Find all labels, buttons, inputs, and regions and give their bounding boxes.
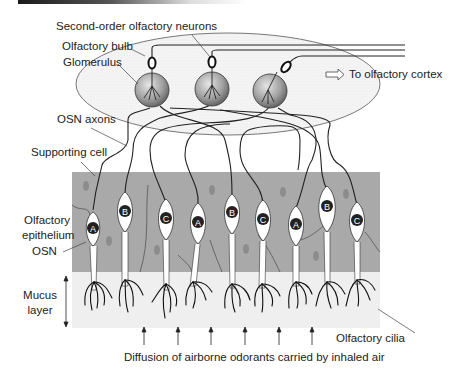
label-to-olfactory-cortex: To olfactory cortex — [349, 68, 442, 81]
label-osn-axons: OSN axons — [57, 113, 116, 126]
glomerulus — [253, 74, 287, 108]
label-glomerulus: Glomerulus — [63, 56, 122, 69]
label-mucus-layer: Mucus layer — [20, 289, 60, 317]
label-supporting-cell: Supporting cell — [31, 146, 107, 159]
label-diffusion: Diffusion of airborne odorants carried b… — [124, 351, 385, 364]
svg-text:A: A — [195, 218, 201, 228]
svg-text:C: C — [260, 215, 267, 225]
svg-text:B: B — [229, 208, 235, 218]
svg-text:A: A — [90, 224, 96, 234]
svg-text:C: C — [354, 216, 361, 226]
svg-text:A: A — [293, 220, 299, 230]
label-olfactory-cilia: Olfactory cilia — [336, 332, 405, 345]
mucus-layer — [72, 272, 380, 328]
label-mucus-line2: layer — [20, 304, 60, 317]
svg-text:B: B — [122, 207, 128, 217]
label-olfactory-bulb: Olfactory bulb — [62, 40, 133, 53]
label-osn: OSN — [32, 245, 57, 258]
label-second-order-neurons: Second-order olfactory neurons — [56, 20, 217, 33]
svg-text:C: C — [163, 214, 170, 224]
diffusion-arrows-icon — [142, 327, 314, 345]
mucus-double-arrow-icon — [64, 276, 68, 327]
label-mucus-line1: Mucus — [20, 289, 60, 302]
label-olfactory-epithelium: Olfactory epithelium — [22, 214, 72, 242]
label-epithelium-line2: epithelium — [22, 229, 72, 242]
label-epithelium-line1: Olfactory — [22, 214, 72, 227]
svg-text:B: B — [324, 202, 330, 212]
